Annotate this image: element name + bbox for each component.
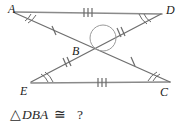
vertex-label-A: A: [7, 2, 16, 16]
segment-EC: [31, 82, 170, 83]
segment-DE: [31, 14, 161, 82]
question-line: △ DBA ≅ ?: [10, 107, 83, 122]
geometry-figure: A D B E C △ DBA ≅ ?: [0, 0, 183, 126]
vertical-angle-arc-at-B: [90, 25, 116, 51]
angle-mark-D: [139, 14, 151, 24]
congruent-symbol: ≅: [54, 107, 66, 122]
tick-marks-BE: [63, 57, 71, 67]
angle-mark-E: [41, 72, 53, 82]
geometry-diagram-canvas: A D B E C △ DBA ≅ ?: [0, 0, 183, 126]
vertex-label-E: E: [19, 84, 28, 98]
triangle-symbol: △: [10, 107, 21, 122]
triangle-name: DBA: [21, 107, 49, 122]
vertex-label-B: B: [72, 44, 80, 58]
answer-placeholder: ?: [77, 107, 83, 122]
vertex-label-D: D: [165, 3, 175, 17]
segment-group: [14, 12, 170, 83]
vertex-label-C: C: [160, 85, 169, 99]
